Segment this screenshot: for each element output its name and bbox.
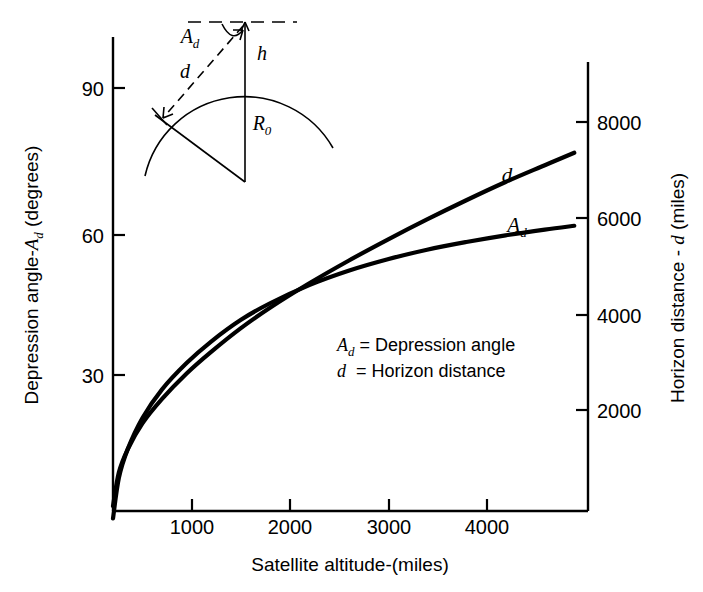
curve-label-ad-symbol: A (505, 213, 520, 237)
legend-row-2: d = Horizon distance (337, 361, 506, 381)
diagram-slant-distance-line (163, 26, 243, 118)
legend-row-1: Ad = Depression angle (336, 335, 515, 359)
diagram-label-distance: d (180, 60, 191, 82)
diagram-label-radius-subscript: 0 (265, 123, 272, 138)
left-tick-label-30: 30 (82, 365, 104, 387)
right-axis-tick-labels: 8000 6000 4000 2000 (597, 112, 642, 422)
axes-frame (113, 37, 588, 511)
diagram-label-distance-symbol: d (180, 60, 191, 82)
diagram-label-height: h (257, 42, 267, 64)
curve-label-d-symbol: d (502, 163, 513, 187)
right-tick-label-6000: 6000 (597, 208, 642, 230)
right-axis-ticks (576, 122, 588, 410)
svg-text:Depression angle-Ad (degrees): Depression angle-Ad (degrees) (21, 146, 46, 405)
right-axis-title: Horizon distance - d (miles) (667, 173, 688, 403)
diagram-label-height-symbol: h (257, 42, 267, 64)
diagram-label-radius-symbol: R (252, 112, 265, 134)
figure-container: 90 60 30 8000 6000 4000 2000 1000 2000 (0, 0, 703, 592)
right-axis-title-prefix: Horizon distance - (667, 245, 688, 403)
left-tick-label-60: 60 (82, 225, 104, 247)
x-tick-label-1000: 1000 (170, 516, 215, 538)
left-tick-label-90: 90 (82, 78, 104, 100)
chart-svg: 90 60 30 8000 6000 4000 2000 1000 2000 (0, 0, 703, 592)
left-axis-title: Depression angle-Ad (degrees) (21, 146, 46, 405)
legend-row-1-equals: = (360, 335, 371, 355)
right-axis-title-suffix: (miles) (667, 173, 688, 235)
right-tick-label-4000: 4000 (597, 305, 642, 327)
left-axis-title-suffix: (degrees) (21, 146, 42, 233)
diagram-label-radius: R0 (252, 112, 272, 138)
legend-block: Ad = Depression angle d = Horizon distan… (336, 335, 515, 381)
left-axis-ticks (113, 88, 125, 375)
x-tick-label-2000: 2000 (268, 516, 313, 538)
legend-row-2-equals: = (356, 361, 367, 381)
diagram-label-angle: Ad (179, 25, 200, 51)
x-tick-label-4000: 4000 (465, 516, 510, 538)
curve-horizon-distance (113, 153, 574, 506)
left-axis-title-symbol: A (21, 238, 42, 252)
left-axis-title-prefix: Depression angle- (21, 250, 42, 404)
curve-label-ad-subscript: d (520, 225, 527, 240)
x-axis-tick-labels: 1000 2000 3000 4000 (170, 516, 510, 538)
right-tick-label-8000: 8000 (597, 112, 642, 134)
inset-geometry-diagram: Ad d h R0 (145, 22, 333, 182)
x-tick-label-3000: 3000 (367, 516, 412, 538)
x-axis-title: Satellite altitude-(miles) (251, 554, 448, 575)
right-axis-title-symbol: d (667, 235, 688, 245)
diagram-radius-line (155, 115, 245, 182)
diagram-label-angle-symbol: A (179, 25, 194, 47)
right-tick-label-2000: 2000 (597, 400, 642, 422)
svg-text:Horizon distance - d (miles): Horizon distance - d (miles) (667, 173, 688, 403)
legend-row-1-text: Depression angle (375, 335, 515, 355)
legend-row-2-text: Horizon distance (372, 361, 506, 381)
curve-label-d: d (502, 163, 513, 187)
diagram-earth-arc (145, 97, 333, 176)
left-axis-tick-labels: 90 60 30 (82, 78, 104, 387)
diagram-label-angle-subscript: d (193, 36, 200, 51)
x-axis-ticks (192, 499, 487, 511)
curve-label-ad: Ad (505, 213, 527, 240)
